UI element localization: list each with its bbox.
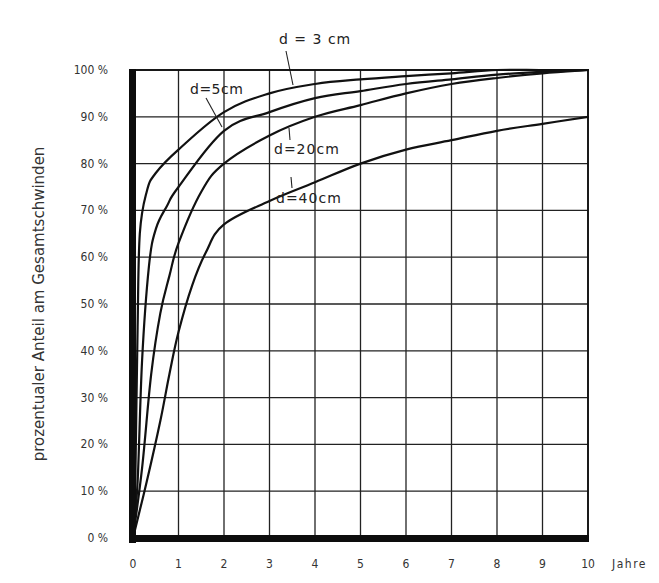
x-axis-unit-label: Jahre	[611, 557, 647, 571]
x-tick-label: 10	[581, 557, 595, 571]
grid	[133, 70, 588, 538]
y-tick-label: 50 %	[81, 297, 108, 311]
y-axis-heavy-bar	[129, 69, 136, 543]
x-tick-label: 9	[539, 557, 546, 571]
curve-label-d3-text: d = 3 cm	[279, 31, 351, 47]
y-tick-label: 30 %	[81, 391, 108, 405]
x-tick-label: 7	[448, 557, 455, 571]
y-tick-label: 90 %	[81, 110, 108, 124]
y-tick-label: 20 %	[81, 437, 108, 451]
curve-label-d20: d=20cm	[274, 128, 340, 157]
leader-line-d3	[286, 51, 293, 85]
y-tick-labels: 0 %10 %20 %30 %40 %50 %60 %70 %80 %90 %1…	[74, 63, 108, 545]
x-tick-label: 3	[266, 557, 273, 571]
curve-label-d20-text: d=20cm	[274, 141, 340, 157]
x-tick-label: 5	[357, 557, 364, 571]
x-tick-label: 8	[494, 557, 501, 571]
y-tick-label: 60 %	[81, 250, 108, 264]
curve-label-d5: d=5cm	[190, 81, 243, 127]
leader-line-d40	[291, 177, 292, 188]
y-tick-label: 0 %	[87, 531, 108, 545]
y-tick-label: 40 %	[81, 344, 108, 358]
y-tick-label: 80 %	[81, 157, 108, 171]
x-tick-labels: 012345678910	[130, 557, 595, 571]
x-tick-label: 4	[312, 557, 319, 571]
curve-label-d40-text: d=40cm	[276, 190, 342, 206]
x-tick-label: 2	[221, 557, 228, 571]
x-axis-heavy-bar	[129, 535, 589, 542]
leader-line-d20	[289, 128, 290, 140]
x-tick-label: 0	[130, 557, 137, 571]
curve-label-d5-text: d=5cm	[190, 81, 243, 97]
x-tick-label: 6	[403, 557, 410, 571]
chart: prozentualer Anteil am Gesamtschwinden 0…	[0, 0, 659, 583]
curve-label-d40: d=40cm	[276, 177, 342, 206]
chart-svg: prozentualer Anteil am Gesamtschwinden 0…	[0, 0, 659, 583]
y-tick-label: 10 %	[81, 484, 108, 498]
y-tick-label: 70 %	[81, 203, 108, 217]
y-tick-label: 100 %	[74, 63, 108, 77]
x-tick-label: 1	[175, 557, 182, 571]
y-axis-label: prozentualer Anteil am Gesamtschwinden	[30, 147, 48, 462]
